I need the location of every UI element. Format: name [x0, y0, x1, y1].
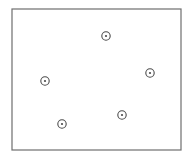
boundary-frame [12, 9, 181, 150]
marker-dot-icon [105, 35, 107, 37]
point-marker [102, 32, 110, 40]
marker-dot-icon [44, 80, 46, 82]
point-marker [118, 111, 126, 119]
point-diagram [0, 0, 191, 154]
point-marker [146, 69, 154, 77]
diagram-canvas [0, 0, 191, 154]
marker-dot-icon [121, 114, 123, 116]
point-marker [58, 120, 66, 128]
marker-dot-icon [149, 72, 151, 74]
point-markers [41, 32, 154, 128]
point-marker [41, 77, 49, 85]
marker-dot-icon [61, 123, 63, 125]
